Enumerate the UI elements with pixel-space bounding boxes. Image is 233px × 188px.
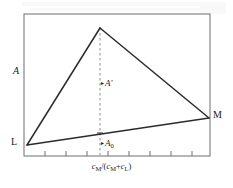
x-label-num-sub: M (95, 165, 101, 172)
x-axis-ticks (45, 151, 192, 156)
x-label-den-sub2: L (125, 165, 129, 172)
x-label-den-var2: c (121, 161, 125, 171)
arrow-left-icon: ▸ (101, 140, 104, 146)
vertex-label-L: L (11, 137, 17, 147)
y-axis-label: A (13, 66, 19, 76)
annotation-a-prime-text: A (105, 78, 111, 88)
segment-L-apex (27, 28, 100, 145)
arrow-left-icon: ▸ (101, 80, 104, 86)
annotation-a-prime: ▸A′ (110, 79, 120, 88)
segment-apex-M (100, 28, 209, 118)
vertex-label-M: M (213, 110, 222, 120)
annotation-a-zero: ▸A0 (109, 139, 121, 148)
figure-panel (0, 0, 233, 188)
diagram-canvas (0, 0, 233, 188)
scan-noise (22, 2, 226, 14)
x-label-den-sub1: M (110, 165, 116, 172)
annotation-a-prime-mark: ′ (111, 78, 113, 88)
annotation-a-zero-subscript: 0 (111, 142, 114, 149)
x-axis-label: cM/(cM+cL) (0, 162, 233, 171)
annotation-a-zero-text: A (105, 138, 111, 148)
